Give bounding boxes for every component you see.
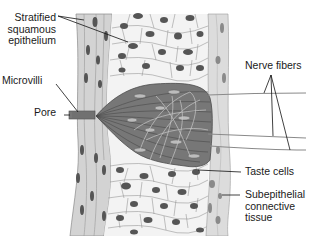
label-taste-cells: Taste cells: [245, 166, 294, 178]
label-pore: Pore: [34, 107, 56, 119]
pore-microvilli: [69, 111, 95, 119]
label-stratified-squamous-epithelium: Stratified squamous epithelium: [6, 12, 56, 47]
label-microvilli: Microvilli: [2, 75, 42, 87]
label-nerve-fibers: Nerve fibers: [245, 60, 302, 72]
label-subepithelial-connective-tissue: Subepithelial connective tissue: [245, 189, 305, 224]
